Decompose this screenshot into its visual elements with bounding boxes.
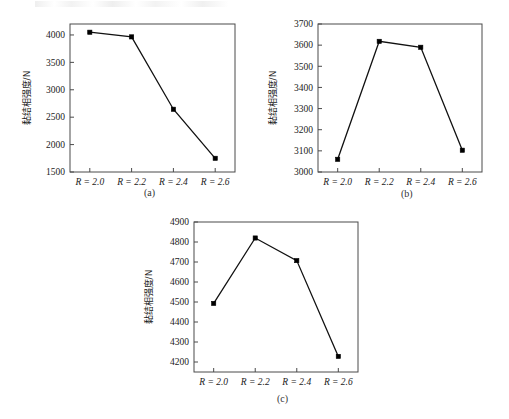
- y-axis-tick-label: 3600: [294, 40, 313, 50]
- x-axis-tick-label: R = 2.4: [158, 177, 188, 186]
- plot-frame: [70, 24, 235, 172]
- x-axis-tick-label: R = 2.2: [240, 377, 270, 386]
- data-point-marker: [295, 259, 299, 263]
- data-point-marker: [377, 39, 381, 43]
- data-point-marker: [88, 30, 92, 34]
- x-axis-tick-label: R = 2.0: [198, 377, 228, 386]
- data-point-marker: [419, 45, 423, 49]
- y-axis-title: 黏结相强度/N: [267, 71, 278, 126]
- data-point-marker: [460, 148, 464, 152]
- y-axis-tick-label: 1500: [46, 167, 65, 177]
- series-line: [214, 238, 339, 356]
- data-point-marker: [213, 156, 217, 160]
- panel-caption-b: (b): [401, 188, 413, 199]
- plot-area: 150020002500300035004000R = 2.0R = 2.2R …: [18, 14, 248, 186]
- y-axis-title: 黏结相强度/N: [21, 71, 32, 126]
- chart-panel-a: 150020002500300035004000R = 2.0R = 2.2R …: [18, 14, 248, 186]
- y-axis-tick-label: 3000: [294, 167, 313, 177]
- y-axis-tick-label: 4400: [170, 317, 189, 327]
- y-axis-tick-label: 4000: [46, 30, 65, 40]
- y-axis-tick-label: 3500: [294, 62, 313, 72]
- y-axis-tick-label: 3500: [46, 58, 65, 68]
- chart-panel-b: 30003100320033003400350036003700R = 2.0R…: [264, 14, 496, 186]
- data-point-marker: [130, 35, 134, 39]
- x-axis-tick-label: R = 2.2: [364, 177, 394, 186]
- data-point-marker: [253, 236, 257, 240]
- y-axis-tick-label: 3000: [46, 85, 65, 95]
- x-axis-tick-label: R = 2.0: [74, 177, 104, 186]
- series-line: [338, 41, 463, 159]
- chart-panel-c: 42004300440045004600470048004900R = 2.0R…: [140, 212, 372, 386]
- panel-caption-c: (c): [277, 393, 288, 404]
- x-axis-tick-label: R = 2.6: [447, 177, 477, 186]
- y-axis-tick-label: 3400: [294, 83, 313, 93]
- y-axis-tick-label: 4300: [170, 337, 189, 347]
- data-point-marker: [336, 157, 340, 161]
- x-axis-tick-label: R = 2.0: [322, 177, 352, 186]
- plot-frame: [318, 24, 482, 172]
- y-axis-tick-label: 4800: [170, 237, 189, 247]
- x-axis-tick-label: R = 2.2: [116, 177, 146, 186]
- y-axis-tick-label: 3700: [294, 19, 313, 29]
- y-axis-tick-label: 3200: [294, 125, 313, 135]
- data-point-marker: [212, 301, 216, 305]
- y-axis-tick-label: 4900: [170, 217, 189, 227]
- data-point-marker: [336, 354, 340, 358]
- y-axis-title: 黏结相强度/N: [143, 270, 154, 325]
- x-axis-tick-label: R = 2.4: [281, 377, 311, 386]
- y-axis-tick-label: 4700: [170, 257, 189, 267]
- x-axis-tick-label: R = 2.4: [405, 177, 435, 186]
- y-axis-tick-label: 2000: [46, 140, 65, 150]
- y-axis-tick-label: 3300: [294, 104, 313, 114]
- y-axis-tick-label: 3100: [294, 146, 313, 156]
- y-axis-tick-label: 4200: [170, 357, 189, 367]
- plot-area: 42004300440045004600470048004900R = 2.0R…: [140, 212, 372, 386]
- data-point-marker: [171, 107, 175, 111]
- y-axis-tick-label: 4500: [170, 297, 189, 307]
- y-axis-tick-label: 4600: [170, 277, 189, 287]
- x-axis-tick-label: R = 2.6: [323, 377, 353, 386]
- series-line: [90, 32, 215, 158]
- scan-artifact-strip: [35, 1, 250, 7]
- panel-caption-a: (a): [144, 187, 155, 198]
- plot-frame: [194, 222, 358, 372]
- x-axis-tick-label: R = 2.6: [200, 177, 230, 186]
- plot-area: 30003100320033003400350036003700R = 2.0R…: [264, 14, 496, 186]
- y-axis-tick-label: 2500: [46, 112, 65, 122]
